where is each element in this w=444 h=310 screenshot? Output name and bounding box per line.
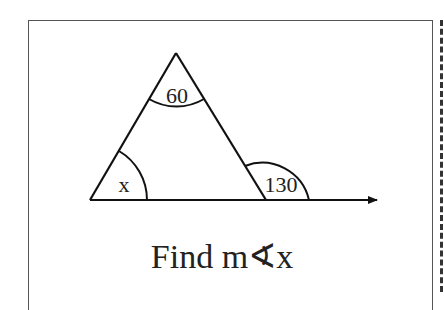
left-angle-label: x	[119, 172, 130, 197]
exterior-angle-label: 130	[265, 172, 298, 197]
question-caption: Find m∢x	[0, 236, 444, 276]
side-left	[90, 53, 176, 200]
apex-angle-label: 60	[166, 83, 188, 108]
side-right	[176, 53, 266, 200]
